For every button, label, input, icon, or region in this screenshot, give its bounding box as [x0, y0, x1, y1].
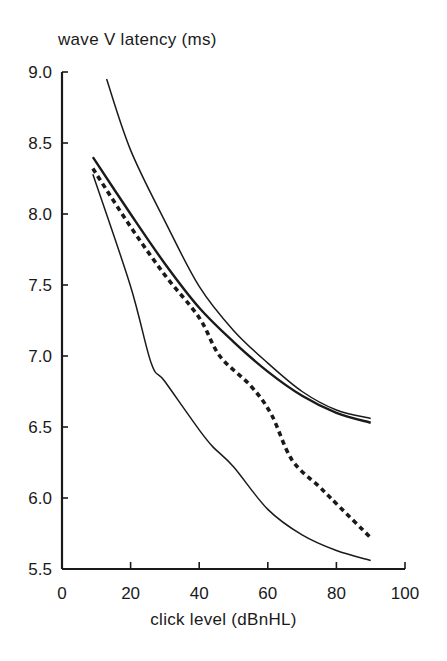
y-tick-label: 8.5 — [28, 134, 52, 153]
x-tick-label: 60 — [258, 584, 277, 603]
y-tick-label: 6.0 — [28, 489, 52, 508]
x-axis-label: click level (dBnHL) — [0, 610, 447, 630]
y-tick-label: 6.5 — [28, 418, 52, 437]
x-tick-label: 0 — [57, 584, 66, 603]
series-dashed-curve — [93, 169, 371, 538]
chart-plot-area: 5.56.06.57.07.58.08.59.0020406080100 — [0, 0, 447, 661]
axes — [62, 72, 405, 569]
y-tick-label: 8.0 — [28, 205, 52, 224]
x-tick-label: 20 — [121, 584, 140, 603]
y-tick-label: 5.5 — [28, 560, 52, 579]
x-tick-label: 40 — [190, 584, 209, 603]
y-tick-label: 9.0 — [28, 63, 52, 82]
x-tick-label: 80 — [327, 584, 346, 603]
y-tick-label: 7.5 — [28, 276, 52, 295]
x-tick-label: 100 — [391, 584, 419, 603]
series-mean — [93, 157, 371, 423]
data-series — [93, 79, 371, 560]
y-tick-label: 7.0 — [28, 347, 52, 366]
series-upper-bound — [107, 79, 371, 418]
